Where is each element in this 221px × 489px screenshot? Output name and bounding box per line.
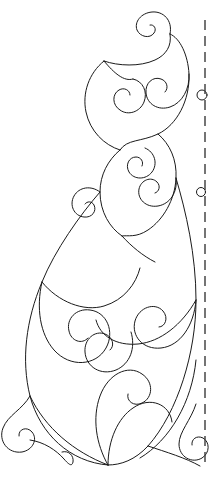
filigree-scroll-illustration bbox=[0, 0, 221, 489]
canvas-background bbox=[0, 0, 221, 489]
artboard bbox=[0, 0, 221, 489]
